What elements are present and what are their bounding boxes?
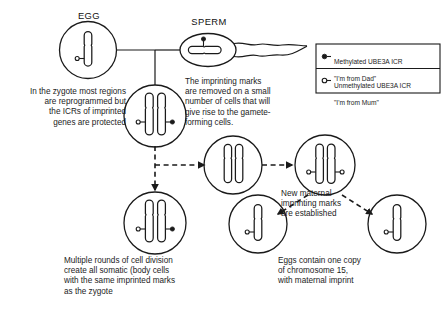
sperm-chromosome (188, 46, 221, 53)
egg-cell-membrane (60, 22, 117, 79)
legend-unmethylated-line2: "I'm from Mum" (334, 99, 379, 106)
egg-chromosome (84, 32, 92, 66)
sperm-tail-upper (234, 43, 307, 46)
sperm-tail-lower (234, 46, 307, 57)
somatic-chromosome-paternal (158, 200, 166, 242)
somatic-chromosome-maternal (145, 200, 153, 242)
reimprinted-chromosome-left (316, 144, 324, 183)
zygote-unmethylated-marker (136, 120, 145, 124)
germline-cell-membrane (204, 136, 262, 194)
germline-precursor-cell (204, 136, 262, 194)
somatic-unmethylated-marker (136, 227, 145, 231)
reimprinted-cell-membrane (295, 135, 355, 195)
mature-egg-left-chromosome (254, 205, 262, 241)
reimprinted-chromosome-right (327, 144, 335, 183)
germline-chromosome-left (224, 144, 231, 182)
eggs-note: Eggs contain one copy of chromosome 15, … (278, 256, 396, 287)
legend-item-unmethylated-label: Unmethylated UBE3A ICR "I'm from Mum" (334, 74, 438, 108)
reimprinted-unmethylated-marker-right (335, 170, 344, 174)
mature-egg-cell-right (368, 195, 426, 253)
zygote-chromosome-maternal (145, 93, 153, 135)
sperm-label: SPERM (178, 16, 240, 27)
zygote-cell-membrane (124, 85, 186, 147)
egg-label: EGG (60, 10, 118, 21)
sperm-methylated-marker (201, 37, 205, 47)
mature-egg-left-membrane (229, 195, 287, 253)
new-maternal-note: New maternal imprinting marks are establ… (281, 189, 361, 220)
imprinting-diagram: EGG SPERM In the zygote most regions are… (0, 0, 444, 311)
mature-egg-right-membrane (368, 195, 426, 253)
egg-unmethylated-marker (75, 57, 84, 61)
somatic-cell (124, 192, 186, 254)
mature-egg-cell-left (229, 195, 287, 253)
legend-unmethylated-line1: Unmethylated UBE3A ICR (334, 82, 411, 89)
reimprinted-germ-cell (295, 135, 355, 195)
germline-chromosome-right (235, 144, 242, 182)
sperm-cell (180, 34, 307, 67)
mature-egg-right-chromosome (393, 205, 401, 241)
mature-egg-right-unmethylated-marker (384, 230, 393, 234)
somatic-note: Multiple rounds of cell division create … (64, 256, 214, 297)
zygote-note: In the zygote most regions are reprogram… (2, 87, 126, 128)
somatic-methylated-marker (165, 227, 174, 231)
fertilisation-connectors (116, 50, 180, 85)
legend-methylated-line1: Methylated UBE3A ICR (334, 58, 403, 65)
mature-egg-left-unmethylated-marker (245, 230, 254, 234)
zygote-chromosome-paternal (158, 93, 166, 135)
egg-cell (60, 22, 117, 79)
zygote-methylated-marker (165, 120, 174, 124)
reimprinted-unmethylated-marker-left (307, 170, 316, 174)
zygote-cell (124, 85, 186, 147)
germline-note: The imprinting marks are removed on a sm… (185, 77, 297, 128)
somatic-cell-membrane (124, 192, 186, 254)
